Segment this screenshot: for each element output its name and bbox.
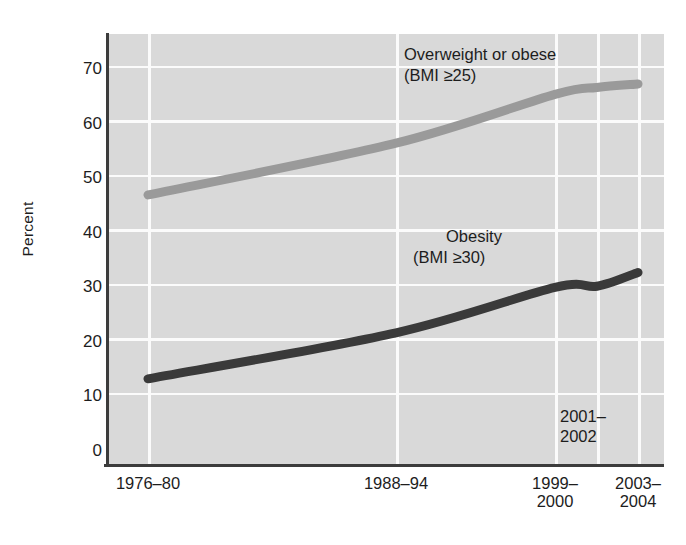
annotation-period-2001-2002: 2001– 2002 bbox=[560, 406, 606, 446]
y-axis-line bbox=[106, 33, 109, 466]
series-lines bbox=[108, 34, 664, 465]
x-tick-2003-2004: 2003– 2004 bbox=[615, 474, 661, 511]
annotation-overweight-label-line1: Overweight or obese bbox=[404, 44, 556, 64]
annotation-obesity-label-line1: Obesity bbox=[446, 226, 502, 246]
y-tick-40: 40 bbox=[62, 224, 102, 241]
line-obesity bbox=[148, 272, 638, 378]
x-tick-1999-2000: 1999– 2000 bbox=[532, 474, 578, 511]
line-overweight-or-obese bbox=[148, 84, 638, 195]
y-axis-title: Percent bbox=[19, 179, 37, 279]
y-tick-70: 70 bbox=[62, 60, 102, 77]
y-tick-10: 10 bbox=[62, 387, 102, 404]
y-axis-tick-labels: 70 60 50 40 30 20 10 0 bbox=[50, 0, 102, 545]
plot-area: Overweight or obese (BMI ≥25) Obesity (B… bbox=[108, 34, 664, 465]
y-tick-20: 20 bbox=[62, 333, 102, 350]
y-tick-0: 0 bbox=[62, 442, 102, 459]
annotation-obesity-label-line2: (BMI ≥30) bbox=[413, 247, 485, 267]
annotation-overweight-label-line2: (BMI ≥25) bbox=[404, 65, 476, 85]
x-tick-1976-80: 1976–80 bbox=[116, 474, 180, 492]
y-tick-50: 50 bbox=[62, 169, 102, 186]
x-tick-1988-94: 1988–94 bbox=[364, 474, 428, 492]
y-tick-60: 60 bbox=[62, 115, 102, 132]
y-tick-30: 30 bbox=[62, 278, 102, 295]
chart-container: Percent 70 60 50 40 30 20 10 0 Overweig bbox=[0, 0, 686, 545]
x-axis-line bbox=[104, 464, 664, 467]
